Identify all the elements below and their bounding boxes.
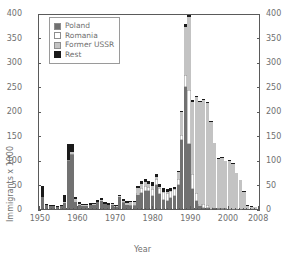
y-tick-right-400 <box>257 14 260 15</box>
y-tick-left-250 <box>38 87 41 88</box>
y-tick-label-right-50: 50 <box>266 182 276 190</box>
x-tick-label-1960: 1960 <box>63 215 93 223</box>
y-tick-label-left-50: 50 <box>12 182 22 190</box>
x-minor-tick-1955 <box>58 208 59 210</box>
x-tick-label-1980: 1980 <box>138 215 168 223</box>
x-major-tick-2008 <box>258 206 259 210</box>
x-minor-tick-1962 <box>85 208 86 210</box>
y-tick-label-left-350: 350 <box>7 35 22 43</box>
x-minor-tick-2003 <box>239 208 240 210</box>
legend-item-rest: Rest <box>54 50 114 59</box>
x-minor-tick-1989 <box>186 208 187 210</box>
y-tick-right-350 <box>257 38 260 39</box>
x-minor-tick-1975 <box>133 208 134 210</box>
legend-item-poland: Poland <box>54 22 114 31</box>
x-minor-tick-1984 <box>167 208 168 210</box>
x-minor-tick-1987 <box>179 208 180 210</box>
y-axis-label-wrap: Immigrants x 1000 <box>8 170 9 171</box>
legend-swatch-romania <box>54 32 61 39</box>
x-major-tick-1950 <box>39 206 40 210</box>
y-tick-left-100 <box>38 161 41 162</box>
x-tick-label-2000: 2000 <box>213 215 243 223</box>
x-minor-tick-1999 <box>224 208 225 210</box>
y-tick-label-right-350: 350 <box>266 35 281 43</box>
x-minor-tick-2001 <box>231 208 232 210</box>
x-minor-tick-1996 <box>212 208 213 210</box>
legend-label-former-ussr: Former USSR <box>65 41 114 49</box>
x-minor-tick-1994 <box>205 208 206 210</box>
x-minor-tick-2007 <box>254 208 255 210</box>
y-tick-left-150 <box>38 136 41 137</box>
y-tick-right-150 <box>257 136 260 137</box>
y-tick-label-left-300: 300 <box>7 59 22 67</box>
x-minor-tick-1977 <box>141 208 142 210</box>
x-tick-label-2008: 2008 <box>243 215 273 223</box>
x-minor-tick-1965 <box>96 208 97 210</box>
x-minor-tick-1963 <box>88 208 89 210</box>
x-minor-tick-1951 <box>43 208 44 210</box>
x-major-tick-1960 <box>77 206 78 210</box>
y-tick-left-400 <box>38 14 41 15</box>
legend-swatch-poland <box>54 23 61 30</box>
x-minor-tick-1983 <box>164 208 165 210</box>
y-tick-label-right-150: 150 <box>266 133 281 141</box>
legend-swatch-former-ussr <box>54 42 61 49</box>
x-minor-tick-1993 <box>201 208 202 210</box>
x-minor-tick-1986 <box>175 208 176 210</box>
x-minor-tick-1952 <box>47 208 48 210</box>
x-tick-label-1950: 1950 <box>25 215 55 223</box>
x-minor-tick-1979 <box>149 208 150 210</box>
x-minor-tick-1998 <box>220 208 221 210</box>
y-tick-left-50 <box>38 185 41 186</box>
y-tick-left-300 <box>38 63 41 64</box>
y-tick-label-left-250: 250 <box>7 84 22 92</box>
x-minor-tick-1995 <box>209 208 210 210</box>
y-tick-label-left-400: 400 <box>7 10 22 18</box>
x-minor-tick-1974 <box>130 208 131 210</box>
x-minor-tick-2004 <box>243 208 244 210</box>
x-major-tick-1990 <box>190 206 191 210</box>
y-tick-label-left-150: 150 <box>7 133 22 141</box>
chart-legend: Poland Romania Former USSR Rest <box>49 17 120 64</box>
x-minor-tick-2006 <box>250 208 251 210</box>
legend-label-rest: Rest <box>65 51 81 59</box>
x-minor-tick-1966 <box>100 208 101 210</box>
x-minor-tick-2005 <box>246 208 247 210</box>
x-minor-tick-1967 <box>103 208 104 210</box>
y-tick-left-200 <box>38 112 41 113</box>
y-tick-right-200 <box>257 112 260 113</box>
y-tick-label-right-400: 400 <box>266 10 281 18</box>
legend-label-poland: Poland <box>65 22 90 30</box>
y-tick-label-right-200: 200 <box>266 108 281 116</box>
y-tick-label-left-200: 200 <box>7 108 22 116</box>
x-minor-tick-1971 <box>118 208 119 210</box>
x-minor-tick-1954 <box>54 208 55 210</box>
y-tick-label-right-100: 100 <box>266 157 281 165</box>
x-minor-tick-2002 <box>235 208 236 210</box>
x-minor-tick-1997 <box>216 208 217 210</box>
x-tick-label-1970: 1970 <box>100 215 130 223</box>
y-tick-right-250 <box>257 87 260 88</box>
x-minor-tick-1953 <box>51 208 52 210</box>
legend-item-former-ussr: Former USSR <box>54 41 114 50</box>
y-tick-left-350 <box>38 38 41 39</box>
x-minor-tick-1985 <box>171 208 172 210</box>
x-minor-tick-1976 <box>137 208 138 210</box>
x-minor-tick-1982 <box>160 208 161 210</box>
x-minor-tick-1968 <box>107 208 108 210</box>
x-minor-tick-1973 <box>126 208 127 210</box>
x-minor-tick-1959 <box>73 208 74 210</box>
chart-figure: Immigrants x 1000 0050501001001501502002… <box>0 0 285 275</box>
y-tick-right-50 <box>257 185 260 186</box>
y-tick-label-right-0: 0 <box>266 206 271 214</box>
x-minor-tick-1969 <box>111 208 112 210</box>
x-minor-tick-1991 <box>194 208 195 210</box>
x-minor-tick-1961 <box>81 208 82 210</box>
x-minor-tick-1964 <box>92 208 93 210</box>
x-minor-tick-1972 <box>122 208 123 210</box>
x-minor-tick-1992 <box>197 208 198 210</box>
y-tick-label-left-100: 100 <box>7 157 22 165</box>
x-minor-tick-1958 <box>69 208 70 210</box>
legend-swatch-rest <box>54 51 61 58</box>
x-axis-label: Year <box>0 245 285 254</box>
